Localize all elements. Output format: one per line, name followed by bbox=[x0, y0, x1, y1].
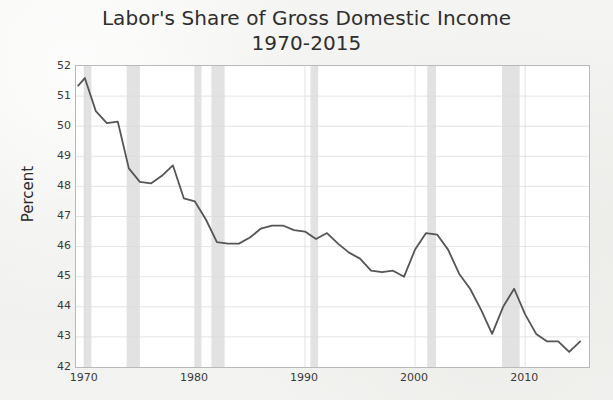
x-axis-tick-1970: 1970 bbox=[54, 372, 114, 383]
x-axis-tick-1980: 1980 bbox=[164, 372, 224, 383]
y-axis-tick-46: 46 bbox=[43, 240, 71, 251]
y-axis-tick-47: 47 bbox=[43, 210, 71, 221]
y-axis-tick-48: 48 bbox=[43, 180, 71, 191]
y-axis-tick-44: 44 bbox=[43, 300, 71, 311]
x-axis-tick-1990: 1990 bbox=[274, 372, 334, 383]
x-axis-tick-2000: 2000 bbox=[384, 372, 444, 383]
y-axis-tick-45: 45 bbox=[43, 270, 71, 281]
y-axis-tick-50: 50 bbox=[43, 120, 71, 131]
chart-screenshot: Labor's Share of Gross Domestic Income 1… bbox=[0, 0, 613, 400]
y-axis-tick-labels: 5251504948474645444342 bbox=[43, 0, 71, 400]
y-axis-tick-49: 49 bbox=[43, 150, 71, 161]
line-chart-svg bbox=[76, 66, 589, 367]
plot-area bbox=[75, 65, 590, 368]
y-axis-tick-52: 52 bbox=[43, 60, 71, 71]
y-axis-title: Percent bbox=[19, 134, 37, 254]
y-axis-tick-42: 42 bbox=[43, 361, 71, 372]
x-axis-tick-2010: 2010 bbox=[494, 372, 554, 383]
y-axis-tick-43: 43 bbox=[43, 330, 71, 341]
plot-wrapper: Percent 5251504948474645444342 197019801… bbox=[0, 0, 613, 400]
y-axis-tick-51: 51 bbox=[43, 90, 71, 101]
